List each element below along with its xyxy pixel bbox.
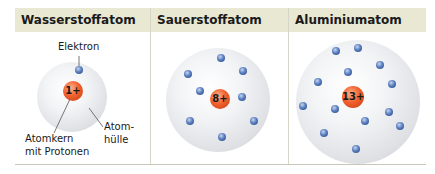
electron bbox=[354, 44, 362, 52]
nucleus: 13+ bbox=[342, 86, 364, 108]
electron bbox=[184, 70, 192, 78]
electron bbox=[396, 122, 404, 130]
electron bbox=[239, 67, 247, 75]
electron bbox=[361, 117, 369, 125]
electron bbox=[376, 61, 384, 69]
electron bbox=[388, 80, 396, 88]
electron bbox=[352, 145, 360, 153]
nucleus: 8+ bbox=[210, 89, 230, 109]
electron bbox=[196, 87, 204, 95]
electron bbox=[314, 78, 322, 86]
electron bbox=[385, 108, 393, 116]
electron bbox=[332, 47, 340, 55]
electron bbox=[320, 129, 328, 137]
electron bbox=[217, 54, 225, 62]
electron bbox=[299, 102, 307, 110]
electron bbox=[250, 117, 258, 125]
electron bbox=[344, 68, 352, 76]
electron bbox=[238, 93, 246, 101]
electron bbox=[218, 133, 226, 141]
electron bbox=[331, 105, 339, 113]
electron bbox=[186, 117, 194, 125]
